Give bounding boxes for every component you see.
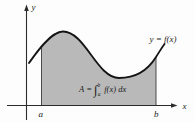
curve-label: y = f(x)	[149, 34, 177, 44]
integral-area-diagram: y x a b y = f(x) A = ∫ba f(x) dx	[0, 0, 195, 122]
x-axis-label: x	[182, 101, 187, 111]
y-axis-arrowhead-icon	[24, 5, 29, 12]
integral-lower-limit: a	[98, 91, 101, 97]
formula-integrand: f(x) dx	[102, 84, 126, 94]
x-axis-arrowhead-icon	[171, 103, 178, 108]
upper-bound-label: b	[154, 109, 159, 119]
lower-bound-label: a	[39, 109, 44, 119]
formula-equals: =	[84, 84, 94, 94]
integral-upper-limit: b	[98, 82, 101, 88]
y-axis-label: y	[31, 2, 36, 12]
diagram-canvas: y x a b y = f(x) A = ∫ba f(x) dx	[0, 0, 195, 122]
